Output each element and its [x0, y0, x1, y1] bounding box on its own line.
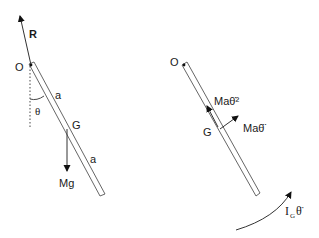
- pivot-dot-right: [183, 64, 186, 67]
- angle-label: θ: [35, 105, 40, 117]
- centre-label-left: G: [72, 119, 81, 131]
- reaction-arrow: [20, 16, 31, 65]
- tangential-force-arrow: [220, 116, 238, 129]
- tangential-label: Maθ̈: [243, 122, 266, 134]
- svg-text:G: G: [290, 212, 295, 220]
- svg-text:I: I: [285, 204, 289, 218]
- pendulum-diagram: R O a θ G a Mg O Maθ̇² G Maθ̈ I G θ̈: [0, 0, 319, 238]
- angle-arc: [30, 96, 44, 100]
- reaction-label: R: [29, 28, 37, 40]
- lower-length-label: a: [90, 153, 97, 165]
- pivot-label-left: O: [15, 61, 24, 73]
- free-body-diagram: R O a θ G a Mg: [15, 16, 105, 196]
- pivot-label-right: O: [170, 56, 179, 68]
- moment-label: I G θ̈: [285, 204, 304, 220]
- weight-label: Mg: [59, 177, 74, 189]
- centripetal-force-arrow: [207, 106, 218, 127]
- svg-text:θ̈: θ̈: [296, 204, 304, 218]
- moment-arc: [236, 192, 291, 230]
- upper-length-label: a: [55, 89, 62, 101]
- centre-label-right: G: [203, 126, 212, 138]
- centripetal-label: Maθ̇²: [214, 95, 239, 107]
- pivot-dot: [30, 64, 33, 67]
- kinetic-diagram: O Maθ̇² G Maθ̈ I G θ̈: [170, 56, 304, 230]
